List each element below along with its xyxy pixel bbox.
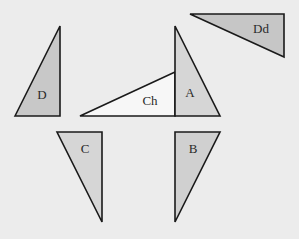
triangle-c-shape (57, 132, 102, 222)
triangle-a-shape (175, 26, 220, 116)
triangle-ch: Ch (80, 72, 175, 116)
triangle-b: B (175, 132, 220, 222)
triangle-d-label: D (37, 87, 46, 102)
triangle-puzzle-diagram: D Ch A Dd C B (0, 0, 299, 239)
triangle-ch-shape (80, 72, 175, 116)
triangle-dd-shape (190, 14, 284, 57)
triangle-d-shape (15, 26, 60, 116)
triangle-c-label: C (81, 141, 90, 156)
triangle-ch-label: Ch (142, 93, 158, 108)
triangle-b-shape (175, 132, 220, 222)
triangle-b-label: B (189, 141, 198, 156)
triangle-a-label: A (185, 85, 195, 100)
diagram-svg: D Ch A Dd C B (0, 0, 299, 239)
triangle-dd-label: Dd (253, 21, 269, 36)
triangle-dd: Dd (190, 14, 284, 57)
triangle-a: A (175, 26, 220, 116)
triangle-c: C (57, 132, 102, 222)
triangle-d: D (15, 26, 60, 116)
